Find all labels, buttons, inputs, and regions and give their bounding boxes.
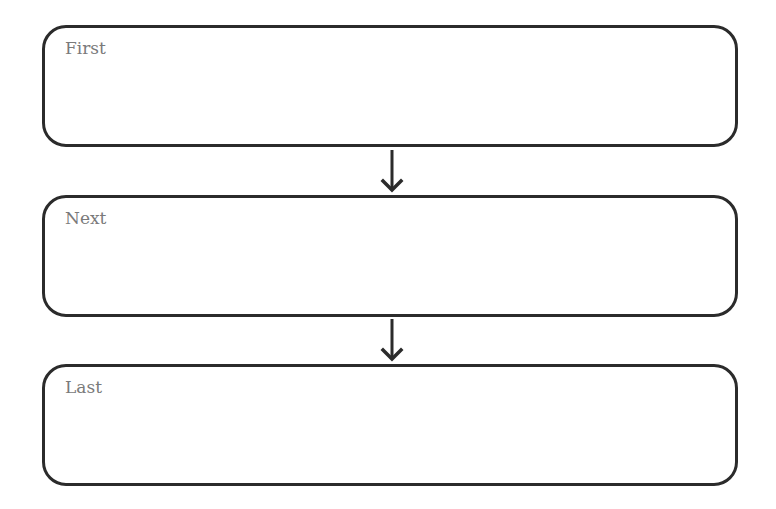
flow-box-first: First bbox=[42, 25, 738, 147]
flow-box-label: Next bbox=[65, 208, 106, 228]
arrow-down-icon bbox=[380, 319, 404, 363]
flow-box-last: Last bbox=[42, 364, 738, 486]
flow-box-next: Next bbox=[42, 195, 738, 317]
flow-box-label: First bbox=[65, 38, 106, 58]
arrow-down-icon bbox=[380, 150, 404, 194]
flow-box-label: Last bbox=[65, 377, 102, 397]
